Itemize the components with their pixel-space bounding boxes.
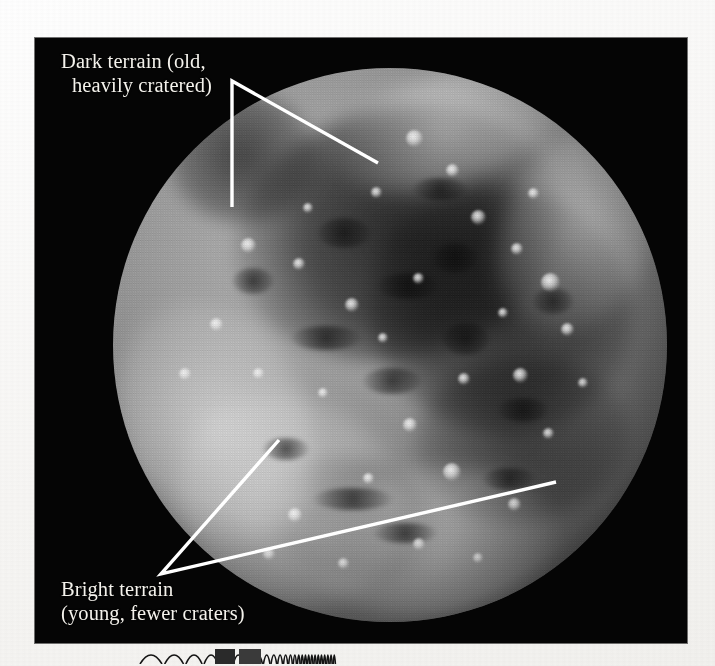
wedge-dark-block [215, 649, 235, 664]
wedge-arch [284, 655, 288, 664]
wedge-arch [317, 655, 319, 664]
annotation-dark-terrain: Dark terrain (old, heavily cratered) [61, 50, 212, 97]
printers-resolution-wedge [138, 648, 438, 664]
dark-patch [263, 438, 309, 460]
impact-crater [363, 473, 374, 484]
annotation-dark-terrain-line1: Dark terrain (old, [61, 50, 206, 72]
impact-crater [508, 498, 521, 511]
annotation-bright-terrain-line1: Bright terrain [61, 578, 173, 600]
dark-patch [413, 178, 467, 200]
dark-patch [363, 368, 421, 394]
dark-patch [373, 523, 437, 543]
dark-patch [498, 398, 548, 422]
dark-patch [291, 326, 361, 350]
wedge-arch [330, 655, 332, 664]
ganymede-photograph: Dark terrain (old, heavily cratered) Bri… [35, 38, 687, 643]
dark-patch [318, 218, 370, 248]
annotation-bright-terrain: Bright terrain (young, fewer craters) [61, 578, 245, 625]
impact-crater [293, 258, 305, 270]
impact-crater [406, 130, 423, 147]
page-canvas: Dark terrain (old, heavily cratered) Bri… [0, 0, 715, 666]
impact-crater [253, 368, 264, 379]
dark-patch [533, 288, 573, 314]
impact-crater [528, 188, 539, 199]
impact-crater [458, 373, 470, 385]
impact-crater [371, 187, 382, 198]
dark-patch [433, 243, 477, 273]
ganymede-disc [113, 68, 667, 622]
wedge-arch [308, 655, 310, 664]
impact-crater [403, 418, 417, 432]
impact-crater [541, 273, 560, 292]
wedge-arch [293, 655, 296, 664]
impact-crater [511, 243, 523, 255]
dark-terrain-region-northwest [168, 93, 318, 223]
wedge-arch [278, 655, 283, 664]
wedge-arch [311, 655, 313, 664]
impact-crater [446, 164, 459, 177]
impact-crater [413, 273, 424, 284]
impact-crater [471, 210, 486, 225]
wedge-arch [304, 655, 306, 664]
wedge-arch [314, 655, 316, 664]
wedge-arch [324, 655, 326, 664]
impact-crater [443, 463, 461, 481]
dark-patch [483, 468, 535, 490]
impact-crater [288, 508, 302, 522]
dark-patch [378, 273, 438, 299]
wedge-arch [333, 655, 335, 664]
wedge-arch [297, 655, 300, 664]
wedge-arch [165, 655, 184, 664]
impact-crater [578, 378, 588, 388]
annotation-bright-terrain-line2: (young, fewer craters) [61, 602, 245, 624]
impact-crater [345, 298, 359, 312]
impact-crater [263, 548, 275, 560]
wedge-arch [271, 655, 277, 664]
impact-crater [303, 203, 313, 213]
impact-crater [378, 333, 388, 343]
wedge-arch [327, 655, 329, 664]
impact-crater [210, 318, 223, 331]
impact-crater [241, 238, 256, 253]
wedge-arch [301, 655, 303, 664]
impact-crater [318, 388, 328, 398]
impact-crater [338, 558, 349, 569]
impact-crater [413, 538, 425, 550]
wedge-arch [140, 655, 162, 664]
wedge-arch [289, 655, 293, 664]
impact-crater [561, 323, 574, 336]
wedge-arch [320, 655, 322, 664]
dark-patch [443, 323, 489, 355]
annotation-dark-terrain-line2: heavily cratered) [72, 74, 212, 98]
impact-crater [473, 553, 483, 563]
dark-patch [313, 488, 393, 510]
moon-sphere [113, 68, 667, 622]
impact-crater [543, 428, 554, 439]
wedge-arch [263, 655, 270, 664]
impact-crater [513, 368, 528, 383]
impact-crater [498, 308, 508, 318]
dark-patch [233, 268, 273, 294]
wedge-dark-block [239, 649, 261, 664]
impact-crater [179, 368, 191, 380]
wedge-arch [186, 655, 202, 664]
